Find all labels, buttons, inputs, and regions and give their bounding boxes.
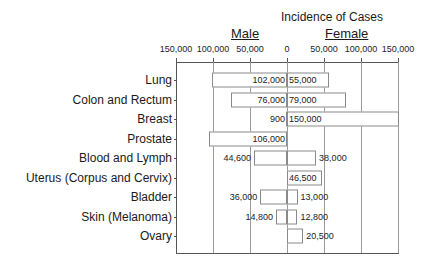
value-label-female: 55,000 bbox=[289, 75, 317, 85]
bottom-axis-line bbox=[176, 253, 399, 254]
category-label: Uterus (Corpus and Cervix) bbox=[0, 171, 172, 185]
value-label-male: 102,000 bbox=[252, 75, 285, 85]
x-tick-label: 150,000 bbox=[382, 44, 415, 54]
value-label-female: 20,500 bbox=[306, 231, 334, 241]
y-tick bbox=[174, 100, 177, 101]
value-label-female: 150,000 bbox=[289, 114, 322, 124]
y-tick bbox=[174, 119, 177, 120]
y-tick bbox=[174, 217, 177, 218]
y-tick bbox=[174, 197, 177, 198]
category-label: Blood and Lymph bbox=[0, 151, 172, 165]
value-label-male: 44,600 bbox=[223, 153, 251, 163]
x-tick-label: 50,000 bbox=[236, 44, 264, 54]
x-tick-label: 100,000 bbox=[197, 44, 230, 54]
x-tick-label: 150,000 bbox=[160, 44, 193, 54]
category-label: Colon and Rectum bbox=[0, 93, 172, 107]
y-tick bbox=[174, 139, 177, 140]
value-label-female: 38,000 bbox=[319, 153, 347, 163]
bar-female bbox=[287, 229, 303, 244]
gridline bbox=[213, 62, 214, 253]
x-tick-label: 50,000 bbox=[310, 44, 338, 54]
gridline bbox=[398, 62, 399, 253]
category-label: Bladder bbox=[0, 190, 172, 204]
y-tick bbox=[174, 178, 177, 179]
bar-male bbox=[260, 190, 287, 205]
chart-title: Incidence of Cases bbox=[252, 10, 412, 24]
bar-female bbox=[287, 209, 297, 224]
female-header: Female bbox=[325, 26, 368, 41]
value-label-male: 14,800 bbox=[246, 212, 274, 222]
male-header: Male bbox=[231, 26, 259, 41]
value-label-male: 900 bbox=[270, 114, 285, 124]
bar-male bbox=[254, 151, 287, 166]
y-tick bbox=[174, 80, 177, 81]
value-label-male: 36,000 bbox=[230, 192, 258, 202]
bar-female bbox=[287, 190, 298, 205]
category-label: Ovary bbox=[0, 229, 172, 243]
x-tick-label: 0 bbox=[284, 44, 289, 54]
category-label: Lung bbox=[0, 73, 172, 87]
value-label-male: 76,000 bbox=[257, 95, 285, 105]
category-label: Breast bbox=[0, 112, 172, 126]
value-label-female: 12,800 bbox=[300, 212, 328, 222]
value-label-male: 106,000 bbox=[252, 134, 285, 144]
category-label: Prostate bbox=[0, 132, 172, 146]
value-label-female: 79,000 bbox=[289, 95, 317, 105]
bar-female bbox=[287, 151, 316, 166]
category-label: Skin (Melanoma) bbox=[0, 210, 172, 224]
value-label-female: 13,000 bbox=[301, 192, 329, 202]
value-label-female: 46,500 bbox=[289, 173, 317, 183]
bar-male bbox=[276, 209, 287, 224]
y-tick bbox=[174, 158, 177, 159]
y-tick bbox=[174, 236, 177, 237]
x-tick-label: 100,000 bbox=[345, 44, 378, 54]
gridline bbox=[361, 62, 362, 253]
x-tick bbox=[176, 58, 177, 62]
